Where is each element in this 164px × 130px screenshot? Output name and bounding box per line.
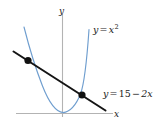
line-label-slope-term: 2x [141, 88, 152, 99]
parabola-label-equals: = [98, 24, 108, 35]
figure-container: y x y=x2 y=15−2x [0, 0, 164, 130]
x-axis-label: x [114, 110, 119, 119]
parabola-curve [24, 27, 89, 113]
parabola-equation-label: y=x2 [93, 25, 119, 35]
intersection-point-right [78, 91, 85, 98]
intersection-point-left [24, 57, 31, 64]
line-label-equals: = [108, 88, 118, 99]
y-axis-label: y [59, 7, 64, 16]
line-equation-label: y=15−2x [103, 89, 153, 99]
line-label-intercept: 15 [119, 88, 131, 99]
line-label-minus: − [131, 88, 141, 99]
plot-canvas [0, 0, 164, 130]
parabola-label-exponent: 2 [114, 23, 118, 31]
